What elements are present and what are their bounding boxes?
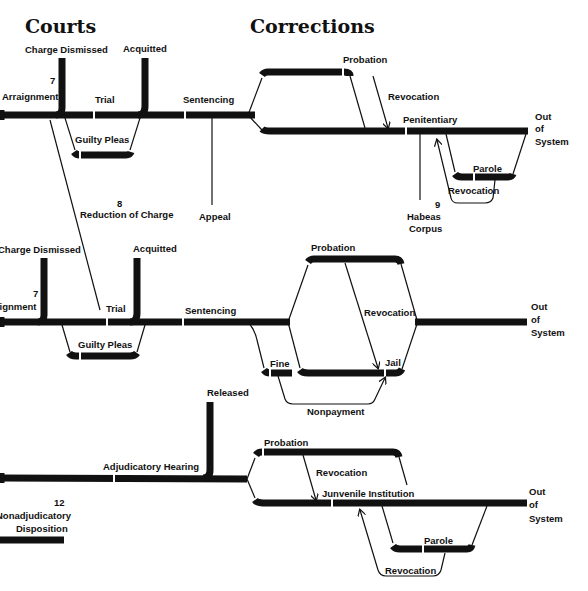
label-charge-dismissed: Charge Dismissed [0, 244, 81, 255]
probation-bar [256, 452, 399, 457]
justice-system-flow-diagram: Courts Corrections [0, 0, 588, 591]
label-juvenile-institution: Junvenile Institution [322, 488, 415, 499]
probation-bar [262, 72, 350, 76]
label-penitentiary: Penitentiary [403, 114, 458, 125]
label-reduction-number: 8 [117, 198, 122, 209]
label-reduction-of-charge: Reduction of Charge [80, 209, 173, 220]
label-habeas: Habeas [407, 211, 441, 222]
label-trial: Trial [95, 94, 115, 105]
label-arraignment: Arraignment [2, 91, 59, 102]
label-corpus: Corpus [409, 223, 442, 234]
label-arraignment-number: 7 [33, 288, 38, 299]
label-guilty-pleas: Guilty Pleas [75, 134, 129, 145]
label-probation: Probation [343, 54, 388, 65]
label-out: Out [529, 486, 546, 497]
label-system: System [535, 136, 569, 147]
label-acquitted: Acquitted [123, 43, 167, 54]
label-arraignment-number: 7 [50, 75, 55, 86]
label-system: System [531, 327, 565, 338]
charge-dismissed-branch [38, 258, 44, 322]
label-probation: Probation [311, 242, 356, 253]
label-parole-revocation: Revocation [385, 565, 436, 576]
label-parole: Parole [473, 163, 502, 174]
label-revocation: Revocation [364, 307, 415, 318]
label-nonpayment: Nonpayment [307, 406, 365, 417]
label-adjudicatory-hearing: Adjudicatory Hearing [103, 461, 199, 472]
parole-bar [455, 174, 513, 177]
penitentiary-bar [262, 129, 528, 131]
released-branch [203, 402, 210, 478]
label-of: of [531, 314, 541, 325]
label-sentencing: Sentencing [183, 94, 234, 105]
revocation-arrow [303, 455, 316, 500]
label-of: of [535, 123, 545, 134]
label-disposition: Disposition [16, 523, 68, 534]
label-acquitted: Acquitted [133, 243, 177, 254]
label-of: of [529, 499, 539, 510]
label-out: Out [535, 111, 552, 122]
label-trial: Trial [106, 303, 126, 314]
label-arraignment: Arraignment [0, 301, 37, 312]
label-habeas-number: 9 [435, 199, 440, 210]
section-juvenile-flow [0, 402, 527, 576]
acquitted-branch [138, 58, 145, 115]
section-felony-flow [0, 58, 528, 310]
label-nonadjudicatory: Nonadjudicatory [0, 510, 72, 521]
label-appeal: Appeal [199, 211, 231, 222]
heading-corrections: Corrections [250, 15, 375, 37]
guilty-pleas-bar [74, 152, 131, 155]
label-fine: Fine [270, 358, 290, 369]
juvenile-institution-bar [255, 500, 527, 503]
revocation-arrow [373, 76, 388, 128]
label-jail: Jail [385, 357, 401, 368]
nonpayment-line [278, 376, 385, 404]
label-revocation: Revocation [316, 467, 367, 478]
label-charge-dismissed: Charge Dismissed [25, 44, 108, 55]
heading-courts: Courts [25, 15, 96, 37]
acquitted-branch [130, 258, 137, 322]
fine-bar [264, 370, 292, 373]
section-misdemeanor-flow [0, 258, 527, 404]
probation-bar [308, 259, 401, 264]
label-revocation: Revocation [388, 91, 439, 102]
label-system: System [529, 513, 563, 524]
label-probation: Probation [264, 437, 309, 448]
label-parole-revocation: Revocation [448, 185, 499, 196]
charge-dismissed-branch [56, 58, 62, 115]
label-out: Out [531, 301, 548, 312]
label-guilty-pleas: Guilty Pleas [78, 339, 132, 350]
label-released: Released [207, 387, 249, 398]
label-sentencing: Sentencing [185, 305, 236, 316]
label-nonadjudicatory-number: 12 [54, 497, 65, 508]
jail-bar [300, 369, 402, 373]
label-parole: Parole [424, 535, 453, 546]
